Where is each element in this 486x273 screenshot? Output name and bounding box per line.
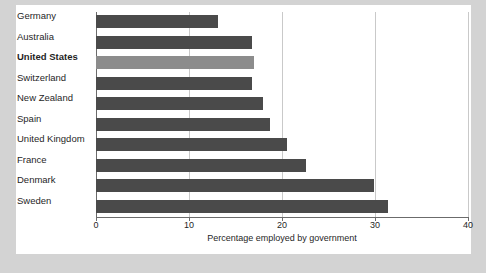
category-label-spain: Spain [17,109,92,130]
x-tick-label-10: 10 [184,220,194,230]
bar-switzerland [96,77,252,90]
bar-row [96,197,468,218]
bar-france [96,159,306,172]
category-label-text: New Zealand [17,88,92,109]
bar-australia [96,36,252,49]
category-label-text: Sweden [17,191,92,212]
category-label-france: France [17,150,92,171]
x-tick-label-40: 40 [463,220,473,230]
bar-row [96,156,468,177]
bar-row [96,135,468,156]
bar-row [96,115,468,136]
bar-spain [96,118,270,131]
bar-row [96,12,468,33]
x-tick-label-0: 0 [93,220,98,230]
plot-area: 010203040 [96,12,468,217]
category-label-text: Germany [17,6,92,27]
category-label-australia: Australia [17,27,92,48]
bar-united-states [96,56,254,69]
category-label-text: Spain [17,109,92,130]
bar-row [96,53,468,74]
category-label-new-zealand: New Zealand [17,88,92,109]
x-tick-label-30: 30 [370,220,380,230]
bar-row [96,74,468,95]
x-axis-label: Percentage employed by government [96,233,468,243]
category-label-text: Australia [17,27,92,48]
category-label-united-states: United States [17,47,92,68]
category-label-text: Denmark [17,170,92,191]
category-label-sweden: Sweden [17,191,92,212]
category-label-united-kingdom: United Kingdom [17,129,92,150]
bar-new-zealand [96,97,263,110]
bar-sweden [96,200,388,213]
category-label-text: United States [17,47,92,68]
category-label-germany: Germany [17,6,92,27]
category-label-text: United Kingdom [17,129,92,150]
x-tick-label-20: 20 [277,220,287,230]
chart-panel: GermanyAustraliaUnited StatesSwitzerland… [17,6,470,253]
bar-germany [96,15,218,28]
category-label-text: Switzerland [17,68,92,89]
category-label-switzerland: Switzerland [17,68,92,89]
category-label-text: France [17,150,92,171]
bar-row [96,33,468,54]
category-axis: GermanyAustraliaUnited StatesSwitzerland… [17,6,92,211]
bar-row [96,94,468,115]
bar-united-kingdom [96,138,287,151]
category-label-denmark: Denmark [17,170,92,191]
bar-row [96,176,468,197]
gridline-40 [468,12,469,217]
chart-figure: GermanyAustraliaUnited StatesSwitzerland… [0,0,486,273]
bar-denmark [96,179,374,192]
